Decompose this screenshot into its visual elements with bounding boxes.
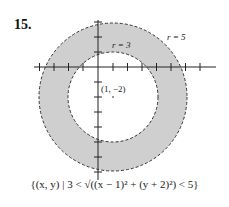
center-point [112, 96, 114, 98]
annulus-figure: r = 3 r = 5 (1, −2) [0, 0, 229, 207]
set-caption: {(x, y) | 3 < √((x − 1)² + (y + 2)²) < 5… [0, 178, 229, 190]
outer-radius-label: r = 5 [167, 32, 186, 42]
inner-radius-label: r = 3 [112, 40, 131, 50]
center-label: (1, −2) [101, 84, 126, 94]
